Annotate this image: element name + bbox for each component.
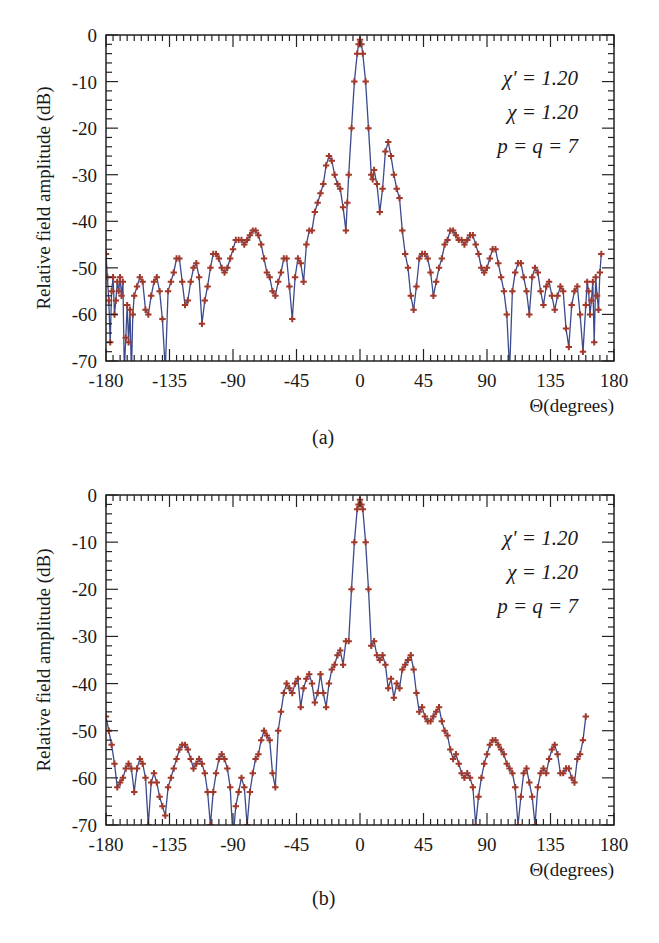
- data-point-marker: [340, 204, 346, 210]
- data-point-marker: [413, 690, 419, 696]
- x-axis-title: Θ(degrees): [530, 859, 614, 881]
- y-tick-label: -70: [72, 815, 97, 836]
- data-point-marker: [523, 288, 529, 294]
- data-point-marker: [595, 307, 601, 313]
- chart-panel-a: -180-135-90-45045901351800-10-20-30-40-5…: [0, 0, 659, 470]
- x-tick-label: -180: [89, 370, 124, 391]
- x-tick-label: 90: [478, 834, 497, 855]
- data-point-marker: [202, 770, 208, 776]
- parameter-annotation: χ = 1.20: [505, 100, 578, 124]
- parameter-annotation: p = q = 7: [495, 134, 579, 158]
- data-point-marker: [275, 279, 281, 285]
- data-point-marker: [393, 185, 399, 191]
- data-point-marker: [159, 316, 165, 322]
- data-point-marker: [388, 676, 394, 682]
- data-point-marker: [131, 293, 137, 299]
- data-point-marker: [473, 241, 479, 247]
- x-tick-label: -45: [284, 370, 309, 391]
- data-point-marker: [199, 321, 205, 327]
- data-point-marker: [583, 713, 589, 719]
- y-tick-label: -60: [72, 768, 97, 789]
- parameter-annotation: χ = 1.20: [505, 560, 578, 584]
- x-tick-label: -90: [220, 834, 245, 855]
- data-point-marker: [487, 255, 493, 261]
- data-point-marker: [430, 293, 436, 299]
- data-point-marker: [501, 288, 507, 294]
- data-point-marker: [529, 274, 535, 280]
- data-point-marker: [235, 789, 241, 795]
- data-point-marker: [382, 148, 388, 154]
- data-point-marker: [238, 775, 244, 781]
- y-tick-label: -40: [72, 674, 97, 695]
- data-point-marker: [475, 794, 481, 800]
- data-point-marker: [317, 671, 323, 677]
- data-point-marker: [554, 293, 560, 299]
- y-tick-label: -10: [72, 72, 97, 93]
- data-point-marker: [583, 302, 589, 308]
- data-point-marker: [537, 288, 543, 294]
- data-point-marker: [312, 209, 318, 215]
- chart-panel-b: -180-135-90-45045901351800-10-20-30-40-5…: [0, 465, 659, 943]
- data-point-marker: [447, 746, 453, 752]
- data-point-marker: [526, 311, 532, 317]
- data-point-marker: [584, 279, 590, 285]
- chart-b-plot: -180-135-90-45045901351800-10-20-30-40-5…: [0, 465, 659, 943]
- data-point-marker: [379, 185, 385, 191]
- data-point-marker: [391, 172, 397, 178]
- x-tick-label: 135: [536, 834, 565, 855]
- data-point-marker: [233, 803, 239, 809]
- data-point-marker: [563, 325, 569, 331]
- data-point-marker: [360, 50, 366, 56]
- data-point-marker: [202, 297, 208, 303]
- data-point-marker: [362, 78, 368, 84]
- data-point-marker: [365, 586, 371, 592]
- data-point-marker: [577, 311, 583, 317]
- data-point-marker: [213, 770, 219, 776]
- data-point-marker: [187, 756, 193, 762]
- data-point-marker: [258, 241, 264, 247]
- x-tick-label: -45: [284, 834, 309, 855]
- x-tick-label: 45: [414, 834, 433, 855]
- x-tick-label: 90: [478, 370, 497, 391]
- data-point-marker: [148, 779, 154, 785]
- data-point-marker: [131, 789, 137, 795]
- data-point-marker: [171, 765, 177, 771]
- data-point-marker: [520, 274, 526, 280]
- chart-b-caption: (b): [312, 887, 335, 910]
- data-point-marker: [156, 288, 162, 294]
- data-point-marker: [151, 770, 157, 776]
- x-tick-label: 45: [414, 370, 433, 391]
- data-point-marker: [546, 756, 552, 762]
- data-point-marker: [365, 125, 371, 131]
- data-point-marker: [362, 539, 368, 545]
- data-point-marker: [323, 162, 329, 168]
- data-point-marker: [439, 255, 445, 261]
- data-point-marker: [512, 269, 518, 275]
- data-point-marker: [475, 251, 481, 257]
- data-point-marker: [495, 260, 501, 266]
- data-point-marker: [292, 274, 298, 280]
- chart-a-plot: -180-135-90-45045901351800-10-20-30-40-5…: [0, 0, 659, 470]
- data-point-marker: [377, 209, 383, 215]
- data-point-marker: [314, 199, 320, 205]
- data-point-marker: [142, 775, 148, 781]
- data-point-marker: [518, 794, 524, 800]
- data-point-marker: [552, 307, 558, 313]
- data-point-marker: [250, 770, 256, 776]
- data-point-marker: [309, 680, 315, 686]
- data-point-marker: [348, 586, 354, 592]
- data-point-marker: [247, 789, 253, 795]
- data-point-marker: [196, 274, 202, 280]
- data-point-marker: [165, 784, 171, 790]
- data-point-marker: [526, 779, 532, 785]
- data-point-marker: [173, 756, 179, 762]
- data-point-marker: [396, 195, 402, 201]
- data-point-marker: [323, 704, 329, 710]
- data-point-marker: [320, 690, 326, 696]
- data-point-marker: [281, 690, 287, 696]
- y-tick-label: 0: [88, 25, 98, 46]
- y-axis-title: Relative field amplitude (dB): [33, 86, 55, 309]
- y-axis-title: Relative field amplitude (dB): [33, 548, 55, 771]
- data-point-marker: [207, 265, 213, 271]
- data-point-marker: [187, 279, 193, 285]
